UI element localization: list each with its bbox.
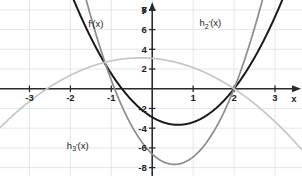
x-tick-label: -2 xyxy=(66,92,74,103)
y-axis-name: y xyxy=(142,3,148,14)
graph-canvas: -3-2-1123-8-6-4-22468 f′(x)h2′(x)h3′(x) … xyxy=(0,0,302,176)
x-axis-name: x xyxy=(291,93,297,104)
y-tick-label: -4 xyxy=(138,123,147,134)
x-tick-label: 3 xyxy=(272,92,277,103)
curves xyxy=(0,0,302,164)
coordinate-plot: -3-2-1123-8-6-4-22468 f′(x)h2′(x)h3′(x) … xyxy=(0,0,302,176)
x-tick-label: 1 xyxy=(191,92,197,103)
y-tick-label: 2 xyxy=(141,63,146,74)
y-tick-label: 6 xyxy=(141,24,146,35)
y-tick-label: 4 xyxy=(141,44,147,55)
curve-3 xyxy=(0,58,302,150)
x-axis-arrow xyxy=(292,85,301,92)
y-tick-label: -8 xyxy=(138,162,146,173)
curve-label-3: h3′(x) xyxy=(67,140,89,153)
y-tick-label: -6 xyxy=(138,142,146,153)
curve-label-1: f′(x) xyxy=(88,18,103,29)
y-tick-label: -2 xyxy=(138,103,146,114)
x-tick-label: -3 xyxy=(25,92,33,103)
x-tick-label: -1 xyxy=(107,92,116,103)
x-tick-label: 2 xyxy=(231,92,236,103)
curve-label-2: h2′(x) xyxy=(199,17,221,30)
